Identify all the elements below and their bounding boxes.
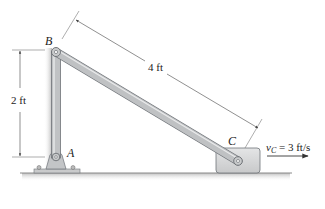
label-b: B xyxy=(45,35,52,47)
ground xyxy=(20,173,292,181)
label-c: C xyxy=(228,135,236,147)
pin-a xyxy=(52,153,60,161)
pin-c xyxy=(234,157,243,166)
pin-b xyxy=(52,48,61,57)
dimension-label-2ft: 2 ft xyxy=(11,95,26,106)
linkage-diagram xyxy=(0,0,325,209)
velocity-value: = 3 ft/s xyxy=(276,141,310,153)
velocity-label: vC = 3 ft/s xyxy=(266,142,310,153)
dimension-label-4ft: 4 ft xyxy=(148,62,163,73)
bolt-icon xyxy=(71,166,75,170)
bolt-icon xyxy=(37,166,41,170)
link-ab xyxy=(52,52,61,158)
dimension-4ft xyxy=(62,11,262,148)
link-bc xyxy=(56,50,238,161)
velocity-subscript: C xyxy=(271,146,276,155)
label-a: A xyxy=(67,147,74,159)
